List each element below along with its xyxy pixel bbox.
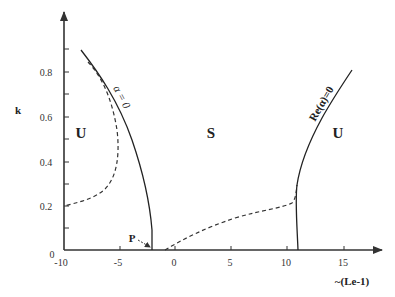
region-label-unstable-right: U [333, 125, 344, 141]
point-p-arrow [138, 240, 150, 247]
curve-alpha-zero [81, 50, 152, 250]
y-tick-label: 0.6 [40, 112, 53, 123]
y-axis-label: k [15, 104, 22, 116]
x-tick-label: -5 [114, 257, 122, 268]
x-tick-label: 15 [338, 257, 348, 268]
x-tick-label: 0 [172, 257, 177, 268]
point-p-label: P [129, 232, 136, 244]
x-axis-label: ~(Le-1) [335, 275, 370, 288]
x-tick-label: 10 [281, 257, 291, 268]
y-tick-label: 0.8 [40, 67, 53, 78]
x-tick-label: 5 [228, 257, 233, 268]
stability-diagram: -10 -5 0 5 10 15 0 0.2 0.4 0.6 0.8 k ~(L… [0, 0, 395, 297]
x-tick-label: -10 [54, 257, 67, 268]
curve-left-dashed [64, 62, 118, 206]
y-tick-label: 0.4 [40, 157, 53, 168]
region-label-unstable-left: U [76, 125, 87, 141]
y-tick-label: 0 [50, 249, 55, 260]
curve-middle-dashed [165, 185, 297, 250]
label-alpha-zero: α = 0 [111, 83, 133, 110]
region-label-stable: S [207, 125, 215, 141]
y-tick-label: 0.2 [40, 201, 53, 212]
